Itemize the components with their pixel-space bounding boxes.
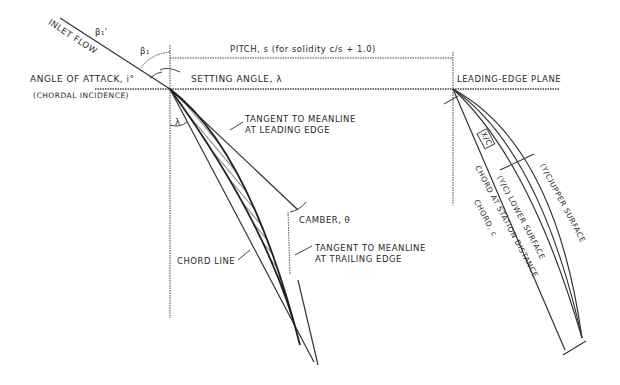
right-leading-tick (444, 96, 458, 104)
angle-of-attack-arc (150, 72, 162, 78)
camber-arc (290, 202, 306, 212)
tangent-leading-label-2: AT LEADING EDGE (245, 125, 330, 135)
beta1-prime-label: β₁' (95, 27, 108, 37)
tangent-trailing-leader (295, 246, 312, 255)
chord-line-label: CHORD LINE (177, 256, 235, 266)
tangent-leading-leader (230, 122, 243, 130)
camber-vertical-ref (288, 212, 290, 275)
angle-of-attack-label: ANGLE OF ATTACK, i° (30, 74, 135, 84)
leading-edge-plane-label: LEADING-EDGE PLANE (457, 74, 561, 84)
right-trailing-edge-cap (563, 341, 586, 355)
setting-angle-label: SETTING ANGLE, λ (191, 74, 282, 84)
tangent-trailing-edge-line (298, 280, 318, 365)
camber-label: CAMBER, θ (299, 215, 350, 225)
tangent-trailing-label-2: AT TRAILING EDGE (315, 254, 402, 264)
tangent-leading-label-1: TANGENT TO MEANLINE (245, 114, 356, 124)
tangent-trailing-label-1: TANGENT TO MEANLINE (315, 243, 426, 253)
pitch-label: PITCH, s (for solidity c/s + 1.0) (230, 44, 376, 54)
lambda-label: λ (175, 117, 181, 127)
right-station-line (500, 154, 534, 170)
chord-line-leader (238, 250, 250, 260)
chordal-incidence-label: (CHORDAL INCIDENCE) (33, 91, 129, 101)
blade-cascade-diagram (0, 0, 620, 385)
beta1-label: β₁ (140, 46, 150, 56)
